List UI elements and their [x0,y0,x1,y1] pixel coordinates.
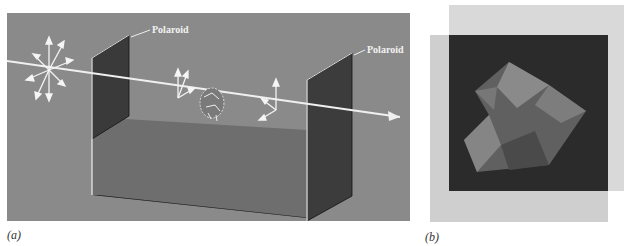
polaroid-1-leader-line [131,30,150,37]
polarized-light-arrows [175,69,195,98]
polaroid-1-label: Polaroid [152,24,189,35]
polaroid-sheet-2 [307,53,352,221]
panel-a-caption: (a) [7,228,21,243]
polaroid-2-leader-line [354,50,365,55]
panel-a-polarimeter-diagram: Polaroid Polaroid [7,13,410,221]
polarimeter-illustration: Polaroid Polaroid [7,13,410,221]
trough-floor [92,117,307,218]
polaroid-2-label: Polaroid [367,44,404,55]
panel-b-caption: (b) [425,230,439,245]
rotated-polarization-arrows [259,79,279,120]
sample-molecule [200,88,224,121]
birefringent-crystal [449,35,608,191]
